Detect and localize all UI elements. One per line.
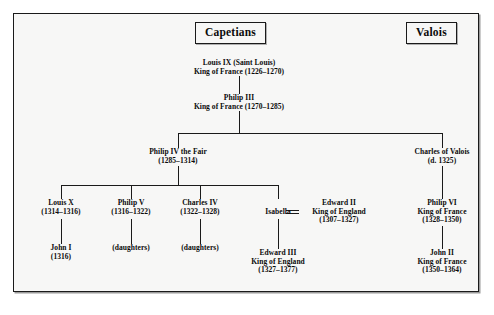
node-charles-of-valois: Charles of Valois (d. 1325) bbox=[414, 148, 469, 165]
connector-charlesvalois-philipvi bbox=[442, 166, 443, 199]
connector-philipiv-down bbox=[178, 166, 179, 185]
node-daughters-philip-v: (daughters) bbox=[112, 244, 150, 253]
node-isabella: Isabella bbox=[265, 208, 290, 217]
node-philip-iii: Philip III King of France (1270–1285) bbox=[194, 94, 284, 111]
connector-isabella-edwardiii bbox=[278, 219, 279, 249]
node-john-i-reign: (1316) bbox=[51, 253, 72, 262]
connector-gen3-bar bbox=[178, 133, 442, 134]
node-charles-iv: Charles IV (1322–1328) bbox=[180, 199, 219, 216]
family-tree-diagram: Capetians Valois bbox=[0, 0, 494, 315]
connector-philipiv-children-bar bbox=[61, 185, 278, 186]
node-philip-v: Philip V (1316–1322) bbox=[111, 199, 150, 216]
diagram-frame: Capetians Valois bbox=[13, 13, 479, 292]
dynasty-label-valois: Valois bbox=[406, 22, 457, 44]
node-philip-v-reign: (1316–1322) bbox=[111, 208, 150, 217]
connector-to-philipv bbox=[131, 185, 132, 199]
node-charles-of-valois-death: (d. 1325) bbox=[414, 157, 469, 166]
connector-philipvi-johnii bbox=[442, 226, 443, 249]
node-john-ii-reign: (1350–1364) bbox=[417, 266, 466, 275]
node-edward-ii-reign: (1307–1327) bbox=[312, 216, 366, 225]
connector-to-louisx bbox=[61, 185, 62, 199]
node-philip-iii-reign: King of France (1270–1285) bbox=[194, 103, 284, 112]
node-edward-iii-reign: (1327–1377) bbox=[251, 266, 305, 275]
dynasty-label-capetians: Capetians bbox=[195, 22, 266, 44]
node-edward-iii: Edward III King of England (1327–1377) bbox=[251, 249, 305, 275]
connector-to-charlesiv bbox=[200, 185, 201, 199]
node-philip-vi-reign: (1328–1350) bbox=[417, 216, 466, 225]
node-daughters-charles-iv-label: (daughters) bbox=[181, 244, 219, 253]
node-john-ii: John II King of France (1350–1364) bbox=[417, 249, 466, 275]
node-daughters-philip-v-label: (daughters) bbox=[112, 244, 150, 253]
node-isabella-name: Isabella bbox=[265, 208, 290, 217]
node-louis-x-reign: (1314–1316) bbox=[41, 208, 80, 217]
node-philip-iv: Philip IV the Fair (1285–1314) bbox=[149, 148, 207, 165]
connector-to-philipiv bbox=[178, 133, 179, 148]
dynasty-capetians-text: Capetians bbox=[205, 26, 256, 38]
node-louis-ix: Louis IX (Saint Louis) King of France (1… bbox=[194, 59, 284, 76]
connector-louisx-johni bbox=[61, 219, 62, 244]
node-philip-iv-reign: (1285–1314) bbox=[149, 157, 207, 166]
node-philip-vi: Philip VI King of France (1328–1350) bbox=[417, 199, 466, 225]
node-edward-ii: Edward II King of England (1307–1327) bbox=[312, 199, 366, 225]
connector-philipv-daughters bbox=[131, 219, 132, 244]
connector-charlesiv-daughters bbox=[200, 219, 201, 244]
connector-louisix-philipiii bbox=[239, 76, 240, 94]
dynasty-valois-text: Valois bbox=[416, 26, 447, 38]
connector-to-charlesvalois bbox=[442, 133, 443, 148]
node-daughters-charles-iv: (daughters) bbox=[181, 244, 219, 253]
node-charles-iv-reign: (1322–1328) bbox=[180, 208, 219, 217]
connector-philipiii-down bbox=[239, 111, 240, 133]
node-louis-x: Louis X (1314–1316) bbox=[41, 199, 80, 216]
node-louis-ix-reign: King of France (1226–1270) bbox=[194, 68, 284, 77]
connector-to-isabella bbox=[278, 185, 279, 199]
node-john-i: John I (1316) bbox=[51, 244, 72, 261]
